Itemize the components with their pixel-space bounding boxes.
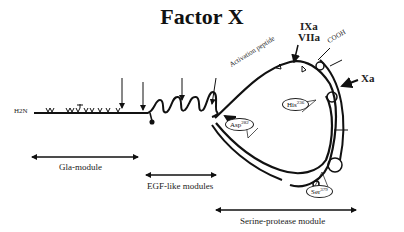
residue-name: Ser xyxy=(311,188,320,196)
egf-modules-label: EGF-like modules xyxy=(147,181,213,191)
gla-module-label: Gla-module xyxy=(59,162,102,172)
serine-protease-module-label: Serine-protease module xyxy=(240,216,325,226)
residue-number: 236 xyxy=(297,100,305,105)
residue-name: Asp xyxy=(230,121,241,129)
residue-number: 282 xyxy=(241,120,249,125)
residue-number: 379 xyxy=(320,187,328,192)
egf-coils xyxy=(148,92,218,117)
residue-name: His xyxy=(287,101,297,109)
n-terminus-label: H2N xyxy=(14,107,28,115)
gla-residue-markers xyxy=(46,104,120,112)
xa-label: Xa xyxy=(361,72,374,84)
protease-inner-chain xyxy=(216,96,332,173)
viia-label: VIIa xyxy=(298,31,320,43)
